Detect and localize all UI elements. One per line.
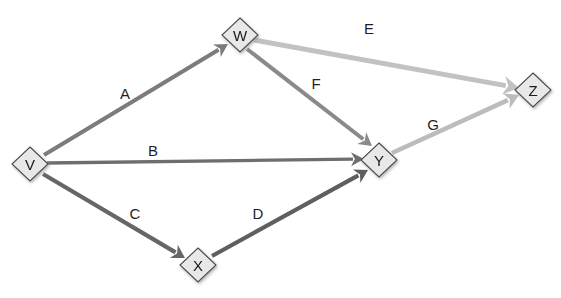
edge-label-G: G [427,116,439,133]
node-label-V: V [25,156,35,173]
edge-F[interactable] [247,49,372,146]
edge-label-A: A [120,85,130,102]
edge-line-E [254,40,506,86]
edge-line-B [47,159,353,163]
edge-C[interactable] [43,174,185,258]
edge-labels-layer: ABCDEFG [120,20,439,222]
edge-label-D: D [253,205,264,222]
edge-line-G [392,100,508,153]
nodes-layer: VWXYZ [12,18,551,282]
node-label-W: W [233,27,248,44]
node-Z[interactable]: Z [515,73,551,107]
edge-line-A [44,50,219,155]
edge-B[interactable] [47,152,364,166]
edges-layer [43,40,519,258]
edge-A[interactable] [44,44,228,155]
node-label-Y: Y [374,152,384,169]
graph-svg: VWXYZ ABCDEFG [0,0,561,298]
edge-label-C: C [130,205,141,222]
edge-label-B: B [148,142,158,159]
edge-G[interactable] [392,93,519,153]
edge-line-F [247,49,363,139]
edge-line-D [212,175,358,256]
edge-label-E: E [364,20,374,37]
edge-label-F: F [311,75,320,92]
edge-line-C [43,174,176,252]
node-label-Z: Z [528,82,537,99]
node-X[interactable]: X [180,248,216,282]
diagram-canvas: VWXYZ ABCDEFG [0,0,561,298]
edge-D[interactable] [212,169,368,256]
node-W[interactable]: W [222,18,258,52]
node-label-X: X [193,257,203,274]
